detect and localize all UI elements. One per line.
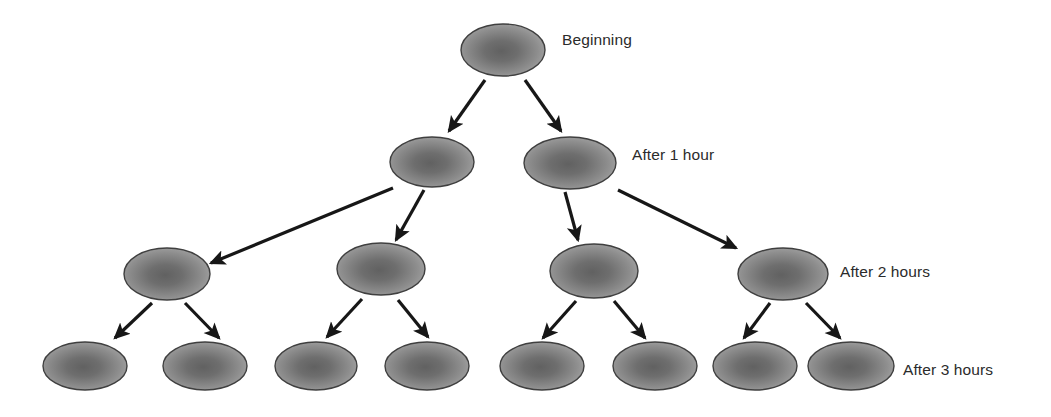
cell-node-2-0[interactable] [124,248,210,300]
cell-node-3-1[interactable] [163,342,247,390]
cell-division-diagram: BeginningAfter 1 hourAfter 2 hoursAfter … [0,0,1051,417]
arrow-layer [115,80,840,338]
arrow-root-to-l1-right-arrow [525,80,561,131]
cell-row-level-2 [124,243,828,300]
cell-node-3-0[interactable] [43,342,127,390]
cell-node-2-3[interactable] [738,248,828,300]
arrow-l1b-to-l2c-arrow [565,192,578,240]
cell-node-1-1[interactable] [524,137,616,189]
stage-label-level-1: After 1 hour [632,147,714,163]
cell-node-2-2[interactable] [550,244,638,298]
arrow-l2b-to-l3d-arrow [398,300,428,337]
cell-node-3-2[interactable] [275,342,357,390]
arrow-l2c-to-l3f-arrow [614,301,645,338]
cell-node-3-3[interactable] [385,342,469,390]
cell-node-3-5[interactable] [613,342,697,390]
diagram-canvas [0,0,1051,417]
arrow-l2a-to-l3b-arrow [185,303,219,338]
arrow-l2d-to-l3g-arrow [744,303,770,338]
cell-node-2-1[interactable] [337,243,425,295]
arrow-l1a-to-l2b-arrow [396,190,424,240]
arrow-l2a-to-l3a-arrow [115,303,152,338]
arrow-l1b-to-l2d-arrow [618,190,736,248]
arrow-root-to-l1-left-arrow [449,80,485,131]
stage-label-level-3: After 3 hours [903,362,993,378]
arrow-l2c-to-l3e-arrow [543,301,576,338]
cell-row-level-1 [390,137,616,189]
cell-node-3-6[interactable] [713,342,797,390]
cell-node-1-0[interactable] [390,137,474,187]
node-layer [43,24,894,390]
arrow-l2d-to-l3h-arrow [806,303,840,338]
arrow-l2b-to-l3c-arrow [327,299,362,337]
cell-row-level-3 [43,342,894,390]
stage-label-level-2: After 2 hours [840,264,930,280]
stage-label-level-0: Beginning [562,32,632,48]
cell-node-0-0[interactable] [461,24,545,76]
cell-row-level-0 [461,24,545,76]
cell-node-3-4[interactable] [500,342,584,390]
cell-node-3-7[interactable] [808,342,894,390]
